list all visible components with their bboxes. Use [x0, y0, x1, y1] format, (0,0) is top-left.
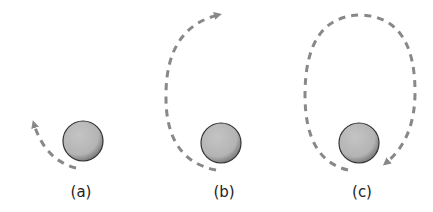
panel-label-c: (c): [352, 183, 372, 201]
orbit-diagram: [0, 0, 433, 212]
panel-b: [166, 15, 241, 170]
panel-label-b: (b): [213, 183, 234, 201]
panel-a: [34, 121, 103, 168]
planet-a: [63, 121, 103, 161]
panel-label-a: (a): [71, 183, 92, 201]
panel-c: [305, 15, 415, 170]
planet-b: [201, 123, 241, 163]
planet-c: [339, 123, 379, 163]
